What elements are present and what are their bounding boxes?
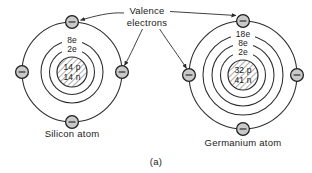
germanium-valence-electron-left <box>183 69 196 82</box>
silicon-valence-electron-bottom <box>66 116 79 129</box>
atom-silicon: 14 p 14 n 8e 2e <box>16 16 129 139</box>
figure-semiconductor-atoms: 14 p 14 n 8e 2e <box>0 0 312 173</box>
leader-electrons-to-silicon-right <box>125 28 144 66</box>
callout-line-valence: Valence <box>129 5 164 16</box>
figure-label: (a) <box>150 156 163 167</box>
silicon-valence-electron-top <box>66 16 79 29</box>
germanium-valence-electron-top <box>237 15 250 28</box>
silicon-shell-label-2e: 2e <box>67 44 77 54</box>
silicon-nucleus-neutrons: 14 n <box>64 72 81 82</box>
germanium-valence-electron-bottom <box>237 123 250 136</box>
silicon-valence-electron-left <box>16 66 29 79</box>
leader-valence-to-germanium-top <box>170 12 236 16</box>
germanium-shell-label-2e: 2e <box>238 47 248 57</box>
leader-electrons-to-germanium-left <box>159 28 187 69</box>
leader-valence-to-silicon-top <box>81 13 125 20</box>
germanium-nucleus-neutrons: 41 n <box>235 75 252 85</box>
valence-electrons-callout: Valence electrons <box>81 5 237 69</box>
silicon-caption: Silicon atom <box>45 128 100 139</box>
silicon-nucleus-protons: 14 p <box>64 62 81 72</box>
germanium-valence-electron-right <box>291 69 304 82</box>
germanium-caption: Germanium atom <box>205 137 282 148</box>
callout-line-electrons: electrons <box>127 17 167 28</box>
silicon-valence-electron-right <box>116 66 129 79</box>
germanium-nucleus-protons: 32 p <box>235 65 252 75</box>
atom-germanium: 32 p 41 n 18e 8e 2e <box>183 15 304 148</box>
